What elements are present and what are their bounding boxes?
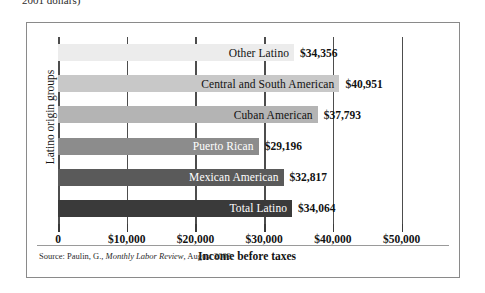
source-suffix: , August 2003.	[183, 251, 233, 261]
x-tick-20000	[195, 224, 197, 232]
bar-row: Other Latino$34,356	[58, 44, 436, 61]
source-divider	[37, 245, 449, 246]
x-tick-label-40000: $40,000	[314, 233, 351, 245]
bar-central-and-south-american: Central and South American	[58, 75, 339, 92]
x-tick-label-50000: $50,000	[383, 233, 420, 245]
bar-category-label: Other Latino	[229, 47, 289, 59]
y-axis-title: Latino origin groups	[44, 42, 56, 192]
source-note: Source: Paulin, G., Monthly Labor Review…	[39, 251, 233, 261]
x-tick-label-0: 0	[55, 233, 61, 245]
bar-value-label: $32,817	[284, 169, 327, 186]
source-publication: Monthly Labor Review	[106, 251, 184, 261]
bar-cuban-american: Cuban American	[58, 106, 318, 123]
bar-category-label: Puerto Rican	[193, 140, 254, 152]
figure-frame: Latino origin groups Other Latino$34,356…	[26, 22, 460, 278]
bar-value-label: $37,793	[318, 106, 361, 123]
bar-row: Mexican American$32,817	[58, 169, 436, 186]
x-tick-30000	[264, 224, 266, 232]
bar-row: Central and South American$40,951	[58, 75, 436, 92]
bar-value-label: $29,196	[259, 138, 302, 155]
bar-total-latino: Total Latino	[58, 200, 292, 217]
bar-category-label: Cuban American	[234, 109, 313, 121]
bar-series: Other Latino$34,356Central and South Ame…	[58, 37, 436, 224]
x-axis-ticks	[58, 224, 436, 232]
x-tick-label-30000: $30,000	[245, 233, 282, 245]
bar-category-label: Mexican American	[189, 171, 278, 183]
bar-row: Total Latino$34,064	[58, 200, 436, 217]
source-prefix: Source: Paulin, G.,	[39, 251, 106, 261]
bar-category-label: Total Latino	[230, 202, 288, 214]
bar-row: Puerto Rican$29,196	[58, 138, 436, 155]
plot-area: Other Latino$34,356Central and South Ame…	[58, 37, 436, 224]
bar-puerto-rican: Puerto Rican	[58, 138, 259, 155]
bar-value-label: $34,356	[294, 44, 337, 61]
x-tick-10000	[127, 224, 129, 232]
clipped-caption-text: 2001 dollars)	[22, 0, 80, 6]
bar-value-label: $40,951	[339, 75, 382, 92]
x-tick-50000	[402, 224, 404, 232]
x-tick-label-10000: $10,000	[108, 233, 145, 245]
x-axis-tick-labels: 0$10,000$20,000$30,000$40,000$50,000	[58, 233, 436, 249]
bar-other-latino: Other Latino	[58, 44, 294, 61]
x-tick-40000	[333, 224, 335, 232]
bar-mexican-american: Mexican American	[58, 169, 284, 186]
bar-row: Cuban American$37,793	[58, 106, 436, 123]
bar-value-label: $34,064	[292, 200, 335, 217]
bar-category-label: Central and South American	[201, 78, 334, 90]
x-tick-0	[58, 224, 60, 232]
x-tick-label-20000: $20,000	[177, 233, 214, 245]
